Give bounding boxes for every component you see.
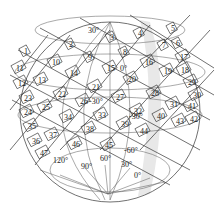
- panel-number: 42: [190, 115, 198, 124]
- panel-number: 15: [107, 64, 115, 73]
- angle-label: 120°: [53, 156, 68, 165]
- sphere-diagram: 1234567891011121314151617181920212223242…: [0, 0, 216, 206]
- panel-number: 40: [157, 112, 165, 121]
- panel-number: 10: [52, 58, 60, 67]
- panel-number: 13: [38, 76, 46, 85]
- panel-number: 7: [162, 41, 166, 50]
- panel-number: 3: [110, 33, 114, 42]
- panel-number: 34: [64, 113, 72, 122]
- angle-label: -60°: [124, 146, 138, 155]
- angle-label: 0°: [134, 171, 141, 180]
- panel-number: 31: [170, 100, 178, 109]
- panel-labels: 1234567891011121314151617181920212223242…: [11, 22, 203, 159]
- panel-number: 4: [138, 29, 142, 38]
- panel-number: 17: [180, 53, 188, 62]
- angle-labels: 30°0°-30°-30°-60°120°90°60°30°0°: [53, 26, 143, 180]
- panel-number: 19: [164, 67, 172, 76]
- panel-number: 6: [176, 39, 180, 48]
- panel-number: 23: [24, 94, 32, 103]
- panel-number: 45: [105, 141, 113, 150]
- panel-number: 2: [69, 40, 73, 49]
- panel-number: 18: [181, 66, 189, 75]
- panel-number: 12: [18, 79, 26, 88]
- panel-number: 27: [116, 93, 124, 102]
- panel-number: 46: [72, 140, 80, 149]
- sphere-drawing: 1234567891011121314151617181920212223242…: [0, 0, 216, 206]
- panel-number: 29: [188, 78, 196, 87]
- panel-number: 41: [188, 102, 196, 111]
- panel-number: 37: [49, 131, 57, 140]
- panel-number: 8: [123, 48, 127, 57]
- panel-number: 25: [42, 103, 50, 112]
- panel-number: 21: [92, 83, 100, 92]
- panel-number: 1: [24, 47, 28, 56]
- panel-number: 39: [121, 120, 129, 129]
- angle-label: 30°: [88, 26, 99, 35]
- panel-number: 33: [98, 111, 106, 120]
- panel-number: 11: [16, 64, 24, 73]
- panel-number: 47: [40, 149, 48, 158]
- panel-number: 35: [28, 122, 36, 131]
- angle-label: -30°: [129, 112, 143, 121]
- panel-number: 44: [140, 127, 148, 136]
- panel-number: 36: [32, 137, 40, 146]
- panel-number: 16: [145, 58, 153, 67]
- panel-number: 43: [176, 117, 184, 126]
- panel-number: 14: [70, 69, 78, 78]
- angle-label: 30°: [121, 160, 132, 169]
- panel-number: 9: [88, 53, 92, 62]
- panel-number: 5: [171, 24, 175, 33]
- angle-label: -30°: [89, 97, 103, 106]
- angle-label: 0°: [120, 64, 127, 73]
- panel-number: 38: [86, 125, 94, 134]
- panel-number: 26: [80, 97, 88, 106]
- panel-number: 28: [151, 89, 159, 98]
- panel-number: 24: [24, 108, 32, 117]
- angle-label: 90°: [81, 162, 92, 171]
- panel-number: 22: [58, 90, 66, 99]
- angle-label: 60°: [100, 154, 111, 163]
- panel-number: 20: [128, 75, 136, 84]
